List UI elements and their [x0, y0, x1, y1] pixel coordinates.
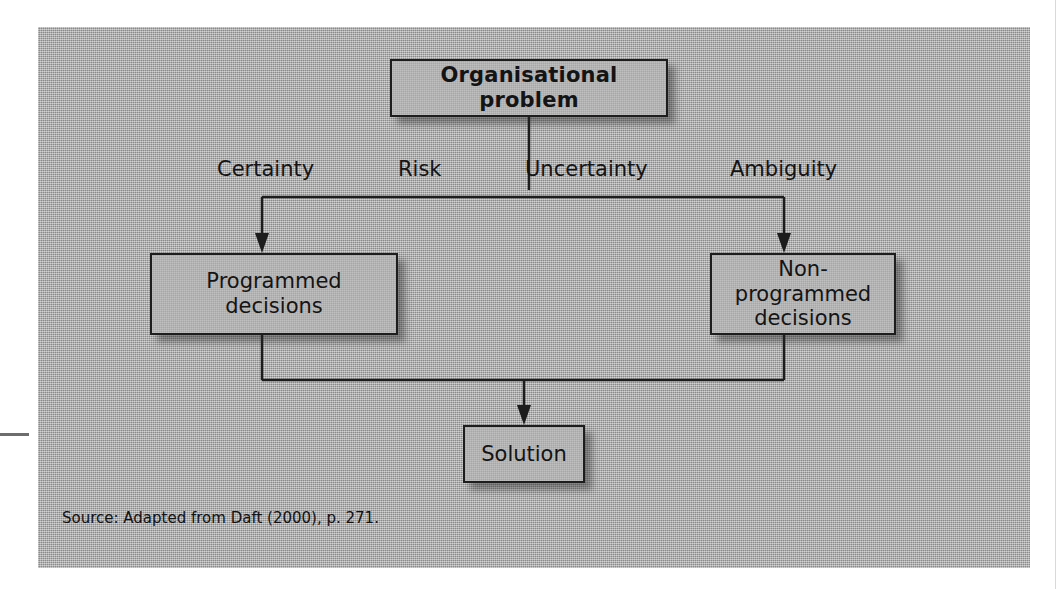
node-non-programmed-decisions-label: Non-programmed decisions — [712, 257, 894, 331]
node-programmed-decisions-label: Programmed decisions — [206, 269, 341, 319]
arrowhead-to-programmed — [255, 233, 269, 253]
condition-label-uncertainty: Uncertainty — [525, 157, 648, 181]
condition-label-risk: Risk — [398, 157, 442, 181]
figure-panel: Organisational problem Certainty Risk Un… — [38, 27, 1030, 568]
node-programmed-decisions-line2: decisions — [225, 294, 323, 318]
arrowhead-to-solution — [517, 405, 531, 425]
condition-label-ambiguity: Ambiguity — [730, 157, 837, 181]
node-organisational-problem: Organisational problem — [390, 59, 668, 117]
node-non-programmed-decisions-line1: Non-programmed — [735, 257, 871, 306]
condition-label-certainty: Certainty — [217, 157, 314, 181]
page-edge-rule — [1055, 0, 1056, 589]
node-organisational-problem-label: Organisational problem — [392, 63, 666, 113]
node-non-programmed-decisions: Non-programmed decisions — [710, 253, 896, 335]
node-non-programmed-decisions-line2: decisions — [754, 306, 852, 330]
arrowhead-to-non-programmed — [777, 233, 791, 253]
node-programmed-decisions: Programmed decisions — [150, 253, 398, 335]
node-solution: Solution — [463, 425, 585, 483]
node-solution-label: Solution — [481, 442, 567, 467]
margin-tick-mark — [0, 433, 29, 436]
source-caption: Source: Adapted from Daft (2000), p. 271… — [62, 509, 379, 527]
node-programmed-decisions-line1: Programmed — [206, 269, 341, 293]
